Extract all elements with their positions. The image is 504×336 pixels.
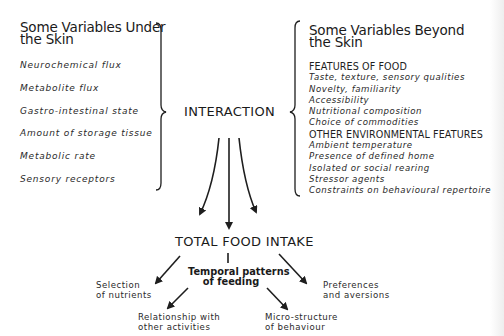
left-brace-icon	[156, 23, 166, 190]
arrow-to-selection-icon	[156, 256, 180, 283]
diagram-connectors	[0, 0, 504, 336]
arrow-interaction-left-icon	[200, 138, 219, 214]
arrow-to-relationship-icon	[168, 288, 188, 308]
arrow-interaction-right-icon	[239, 138, 256, 212]
arrow-to-microstructure-icon	[267, 288, 287, 309]
right-brace-icon	[290, 21, 300, 196]
arrow-to-preferences-icon	[279, 254, 306, 283]
